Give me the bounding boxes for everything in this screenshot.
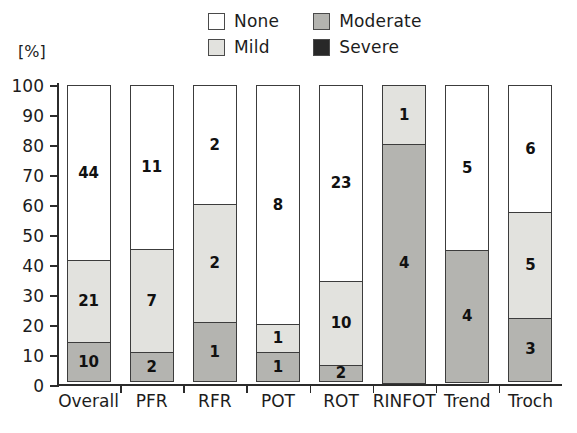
stacked-bar[interactable]: 221 [193, 85, 237, 385]
bar-segment-moderate[interactable]: 1 [193, 322, 237, 382]
y-tick-50: 50 [50, 235, 57, 237]
bar-segment-mild[interactable]: 5 [508, 212, 552, 319]
bar-segment-mild[interactable]: 2 [193, 204, 237, 324]
stacked-bar[interactable]: 1172 [130, 85, 174, 385]
bar-segment-value: 2 [146, 360, 156, 375]
x-tick-6 [436, 385, 438, 393]
bar-segment-value: 4 [399, 256, 409, 271]
legend-label-moderate: Moderate [339, 13, 421, 30]
bar-segment-mild[interactable]: 1 [382, 85, 426, 145]
x-tick-label-trend: Trend [444, 391, 491, 411]
y-axis-unit-label: [%] [18, 42, 46, 61]
bar-segment-none[interactable]: 23 [319, 85, 363, 282]
bar-segment-mild[interactable]: 1 [256, 324, 300, 354]
bar-segment-value: 3 [525, 342, 535, 357]
bar-segment-value: 4 [462, 309, 472, 324]
bar-segment-value: 5 [525, 258, 535, 273]
stacked-bar[interactable]: 811 [256, 85, 300, 385]
legend-swatch-mild [208, 39, 225, 56]
legend-label-none: None [234, 13, 279, 30]
bar-group-rinfot: 14RINFOT [373, 85, 436, 385]
bar-segment-moderate[interactable]: 1 [256, 352, 300, 382]
bar-segment-value: 2 [210, 256, 220, 271]
legend-swatch-severe [313, 39, 330, 56]
bar-segment-moderate[interactable]: 4 [382, 144, 426, 384]
bar-segment-moderate[interactable]: 4 [445, 250, 489, 383]
bar-segment-value: 8 [273, 198, 283, 213]
y-tick-label-60: 60 [22, 196, 44, 216]
bar-segment-none[interactable]: 6 [508, 85, 552, 214]
bar-segment-moderate[interactable]: 3 [508, 318, 552, 382]
bar-segment-moderate[interactable]: 10 [67, 342, 111, 382]
y-tick-100: 100 [50, 85, 57, 87]
y-tick-label-10: 10 [22, 346, 44, 366]
y-tick-90: 90 [50, 115, 57, 117]
x-tick-7 [499, 385, 501, 393]
y-tick-20: 20 [50, 325, 57, 327]
bar-segment-none[interactable]: 5 [445, 85, 489, 252]
y-tick-label-30: 30 [22, 286, 44, 306]
x-tick-label-rot: ROT [323, 391, 359, 411]
bar-segment-moderate[interactable]: 2 [319, 365, 363, 382]
bar-segment-none[interactable]: 2 [193, 85, 237, 205]
stacked-bar[interactable]: 23102 [319, 85, 363, 385]
y-tick-label-90: 90 [22, 106, 44, 126]
bar-segment-mild[interactable]: 7 [130, 249, 174, 354]
bar-segment-value: 1 [273, 360, 283, 375]
plot-area: 1009080706050403020100 442110Overall1172… [57, 85, 562, 385]
bar-segment-mild[interactable]: 10 [319, 281, 363, 367]
bar-segment-value: 7 [146, 294, 156, 309]
legend-item-mild: Mild [208, 34, 279, 60]
bar-group-rfr: 221RFR [183, 85, 246, 385]
y-tick-label-0: 0 [33, 376, 44, 396]
legend-swatch-moderate [313, 13, 330, 30]
bar-segment-value: 21 [78, 294, 99, 309]
bar-segment-value: 2 [336, 366, 346, 381]
x-tick-3 [246, 385, 248, 393]
bar-segment-none[interactable]: 8 [256, 85, 300, 325]
chart-legend: None Moderate Mild Severe [208, 8, 422, 60]
bar-segment-mild[interactable]: 21 [67, 260, 111, 344]
bar-segment-moderate[interactable]: 2 [130, 352, 174, 382]
x-tick-label-pfr: PFR [136, 391, 168, 411]
bar-segment-value: 44 [78, 166, 99, 181]
y-tick-30: 30 [50, 295, 57, 297]
stacked-bar[interactable]: 14 [382, 85, 426, 385]
bar-segment-value: 2 [210, 138, 220, 153]
y-tick-0: 0 [50, 385, 57, 387]
stacked-bar-chart: None Moderate Mild Severe [%] 1009080706… [0, 0, 577, 433]
x-tick-2 [183, 385, 185, 393]
x-tick-label-pot: POT [261, 391, 295, 411]
x-tick-label-rfr: RFR [198, 391, 231, 411]
x-tick-label-rinfot: RINFOT [373, 391, 436, 411]
y-tick-70: 70 [50, 175, 57, 177]
bar-segment-none[interactable]: 44 [67, 85, 111, 261]
bar-segment-value: 6 [525, 142, 535, 157]
x-tick-label-overall: Overall [58, 391, 119, 411]
bar-segment-value: 1 [399, 108, 409, 123]
y-tick-label-100: 100 [12, 76, 44, 96]
legend-item-moderate: Moderate [313, 8, 421, 34]
stacked-bar[interactable]: 653 [508, 85, 552, 385]
bar-segment-value: 11 [141, 160, 162, 175]
stacked-bar[interactable]: 54 [445, 85, 489, 385]
legend-item-none: None [208, 8, 279, 34]
y-tick-label-40: 40 [22, 256, 44, 276]
legend-item-severe: Severe [313, 34, 421, 60]
bar-segment-value: 10 [331, 316, 352, 331]
bar-segment-value: 1 [210, 345, 220, 360]
stacked-bar[interactable]: 442110 [67, 85, 111, 385]
bar-group-troch: 653Troch [499, 85, 562, 385]
bar-segment-value: 23 [331, 176, 352, 191]
bar-group-trend: 54Trend [436, 85, 499, 385]
y-tick-80: 80 [50, 145, 57, 147]
legend-label-mild: Mild [234, 39, 270, 56]
x-tick-1 [120, 385, 122, 393]
legend-label-severe: Severe [339, 39, 399, 56]
bar-segment-value: 1 [273, 331, 283, 346]
y-tick-10: 10 [50, 355, 57, 357]
y-tick-60: 60 [50, 205, 57, 207]
y-tick-label-50: 50 [22, 226, 44, 246]
x-tick-label-troch: Troch [508, 391, 553, 411]
bar-segment-none[interactable]: 11 [130, 85, 174, 250]
